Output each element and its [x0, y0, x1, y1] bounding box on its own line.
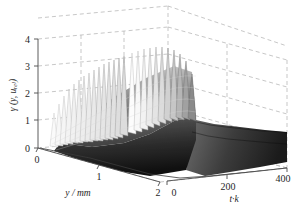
y-tick-2: 2	[156, 187, 161, 198]
z-axis-tick-labels: 4 3 2 1 0	[25, 34, 30, 154]
x-tick-200: 200	[221, 181, 236, 192]
surface-mesh	[40, 47, 287, 178]
y-tick-0: 0	[35, 154, 40, 165]
y-axis-title: y / mm	[64, 188, 90, 198]
y-tick-1: 1	[97, 171, 102, 182]
z-axis-title: γ (y, uᵣₑₗ)	[8, 79, 19, 111]
x-tick-0: 0	[172, 187, 177, 198]
surface-plot-3d: 4 3 2 1 0 0 1 2 0 200 400 γ (y, uᵣₑₗ) y …	[0, 0, 295, 210]
z-tick-4: 4	[25, 34, 30, 45]
x-axis-title: t·k	[229, 194, 239, 204]
z-tick-3: 3	[25, 61, 30, 72]
z-tick-1: 1	[25, 115, 30, 126]
z-tick-0: 0	[25, 143, 30, 154]
figure-container: 4 3 2 1 0 0 1 2 0 200 400 γ (y, uᵣₑₗ) y …	[0, 0, 295, 210]
z-tick-2: 2	[25, 88, 30, 99]
x-tick-400: 400	[276, 173, 291, 184]
